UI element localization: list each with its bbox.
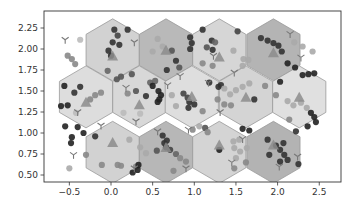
data-point bbox=[280, 140, 286, 146]
data-point bbox=[284, 60, 290, 66]
data-point bbox=[240, 126, 246, 132]
y-tick-label: 2.00 bbox=[18, 44, 38, 54]
data-point bbox=[69, 134, 75, 140]
data-point bbox=[71, 90, 77, 96]
data-point bbox=[92, 133, 98, 139]
data-point bbox=[292, 64, 298, 70]
data-point bbox=[154, 148, 160, 154]
data-point bbox=[258, 35, 264, 41]
y-tick-label: 0.50 bbox=[18, 170, 38, 180]
data-point bbox=[61, 83, 67, 89]
data-point bbox=[235, 28, 241, 34]
data-point bbox=[143, 93, 149, 99]
data-point bbox=[173, 103, 179, 109]
data-point bbox=[228, 102, 234, 108]
data-point bbox=[77, 37, 83, 43]
data-point bbox=[58, 103, 64, 109]
data-point bbox=[251, 96, 257, 102]
data-point bbox=[187, 34, 193, 40]
data-point bbox=[80, 130, 86, 136]
x-tick-label: 0.5 bbox=[145, 187, 159, 197]
data-point bbox=[243, 159, 249, 165]
data-point bbox=[118, 163, 124, 169]
data-point bbox=[212, 39, 218, 45]
data-point bbox=[77, 84, 83, 90]
data-point bbox=[137, 144, 143, 150]
data-point bbox=[210, 63, 216, 69]
data-point bbox=[169, 92, 175, 98]
data-point bbox=[305, 71, 311, 77]
data-point bbox=[98, 90, 104, 96]
data-point bbox=[196, 123, 202, 129]
y-tick-label: 2.25 bbox=[18, 23, 38, 33]
data-point bbox=[187, 46, 193, 52]
data-point bbox=[311, 70, 317, 76]
data-point bbox=[160, 132, 166, 138]
x-tick-label: 0.0 bbox=[104, 187, 119, 197]
hexbin-scatter-chart: −0.50.00.51.01.52.02.5 0.500.751.001.251… bbox=[0, 0, 358, 209]
data-point bbox=[304, 105, 310, 111]
x-tick-label: 2.5 bbox=[312, 187, 326, 197]
plot-area bbox=[44, 11, 341, 183]
data-point bbox=[273, 92, 279, 98]
data-point bbox=[275, 43, 281, 49]
data-point bbox=[215, 96, 221, 102]
data-point bbox=[111, 27, 117, 33]
data-point bbox=[204, 44, 210, 50]
data-point bbox=[240, 63, 246, 69]
data-point bbox=[230, 48, 236, 54]
data-point bbox=[66, 165, 72, 171]
data-point bbox=[246, 127, 252, 133]
data-point bbox=[265, 38, 271, 44]
data-point bbox=[189, 40, 195, 46]
data-point bbox=[185, 105, 191, 111]
data-point bbox=[237, 148, 243, 154]
data-point bbox=[233, 87, 239, 93]
x-tick-label: 1.0 bbox=[187, 187, 202, 197]
data-point bbox=[105, 68, 111, 74]
data-point bbox=[210, 47, 216, 53]
data-point bbox=[265, 137, 271, 143]
data-point bbox=[230, 138, 236, 144]
data-point bbox=[309, 48, 315, 54]
data-point bbox=[68, 140, 74, 146]
data-point bbox=[115, 32, 121, 38]
data-point bbox=[286, 116, 292, 122]
data-point bbox=[313, 119, 319, 125]
data-point bbox=[221, 85, 227, 91]
data-point bbox=[227, 91, 233, 97]
data-point bbox=[133, 88, 139, 94]
data-point bbox=[205, 129, 211, 135]
data-point bbox=[262, 83, 268, 89]
data-point bbox=[129, 71, 135, 77]
x-tick-label: −0.5 bbox=[58, 187, 80, 197]
data-point bbox=[126, 137, 132, 143]
data-point bbox=[284, 157, 290, 163]
data-point bbox=[65, 102, 71, 108]
data-point bbox=[118, 74, 124, 80]
data-point bbox=[177, 155, 183, 161]
y-tick-label: 1.25 bbox=[18, 107, 38, 117]
data-point bbox=[221, 101, 227, 107]
y-tick-label: 1.50 bbox=[18, 86, 38, 96]
data-point bbox=[200, 60, 206, 66]
data-point bbox=[279, 48, 285, 54]
data-point bbox=[62, 123, 68, 129]
data-point bbox=[125, 27, 131, 33]
data-point bbox=[176, 64, 182, 70]
y-tick-label: 1.00 bbox=[18, 128, 38, 138]
data-point bbox=[143, 150, 149, 156]
data-point bbox=[266, 152, 272, 158]
data-point bbox=[116, 42, 122, 48]
data-point bbox=[244, 145, 250, 151]
data-point bbox=[293, 128, 299, 134]
data-point bbox=[150, 83, 156, 89]
data-point bbox=[72, 61, 78, 67]
data-point bbox=[173, 58, 179, 64]
data-point bbox=[137, 111, 143, 117]
data-point bbox=[170, 168, 176, 174]
data-point bbox=[277, 158, 283, 164]
data-point bbox=[200, 108, 206, 114]
data-point bbox=[246, 80, 252, 86]
data-point bbox=[284, 98, 290, 104]
